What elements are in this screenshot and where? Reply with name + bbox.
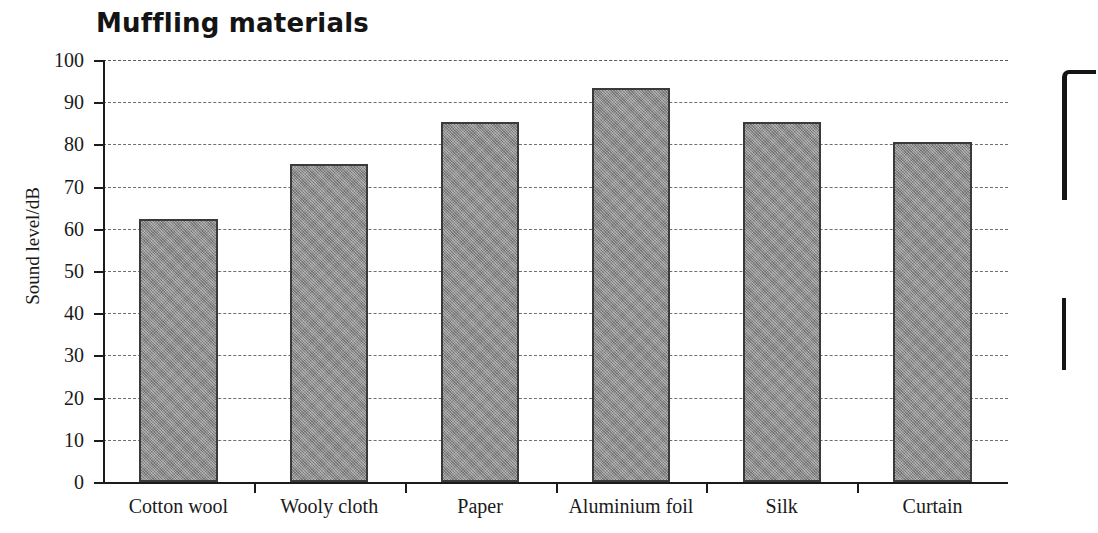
y-tick-label: 70	[24, 177, 84, 197]
x-category-label: Wooly cloth	[254, 496, 405, 516]
y-tick-label: 0	[24, 472, 84, 492]
scan-artifact-binder-clip	[1062, 70, 1096, 370]
bar	[743, 122, 821, 482]
bar	[139, 219, 217, 482]
gridline	[103, 355, 1008, 356]
x-tick-mark	[556, 482, 558, 493]
y-tick-mark	[94, 482, 104, 484]
y-tick-mark	[94, 187, 104, 189]
y-tick-label: 60	[24, 219, 84, 239]
y-tick-mark	[94, 313, 104, 315]
y-tick-mark	[94, 102, 104, 104]
chart-title: Muffling materials	[96, 8, 369, 38]
gridline	[103, 187, 1008, 188]
x-tick-mark	[254, 482, 256, 493]
gridline	[103, 271, 1008, 272]
x-tick-mark	[405, 482, 407, 493]
y-tick-mark	[94, 440, 104, 442]
scan-artifact-top	[1062, 70, 1096, 200]
gridline	[103, 144, 1008, 145]
y-tick-mark	[94, 60, 104, 62]
y-tick-label: 30	[24, 345, 84, 365]
gridline	[103, 102, 1008, 103]
y-tick-label: 80	[24, 134, 84, 154]
gridline	[103, 60, 1008, 61]
x-tick-mark	[706, 482, 708, 493]
x-category-label: Silk	[706, 496, 857, 516]
y-tick-mark	[94, 355, 104, 357]
x-tick-mark	[857, 482, 859, 493]
bar	[441, 122, 519, 482]
x-category-label: Paper	[405, 496, 556, 516]
y-tick-label: 10	[24, 430, 84, 450]
x-category-label: Aluminium foil	[556, 496, 707, 516]
x-category-label: Cotton wool	[103, 496, 254, 516]
gridline	[103, 440, 1008, 441]
y-tick-label: 100	[24, 50, 84, 70]
y-tick-mark	[94, 271, 104, 273]
gridline	[103, 398, 1008, 399]
y-tick-label: 50	[24, 261, 84, 281]
bar	[290, 164, 368, 482]
y-tick-mark	[94, 398, 104, 400]
y-tick-mark	[94, 144, 104, 146]
gridline	[103, 313, 1008, 314]
y-tick-label: 90	[24, 92, 84, 112]
bar	[592, 88, 670, 482]
bar	[893, 142, 971, 482]
gridline	[103, 229, 1008, 230]
plot-area	[103, 60, 1008, 482]
x-category-label: Curtain	[857, 496, 1008, 516]
y-tick-label: 20	[24, 388, 84, 408]
chart-figure: Muffling materials Sound level/dB 100908…	[0, 0, 1098, 533]
y-tick-label: 40	[24, 303, 84, 323]
y-tick-mark	[94, 229, 104, 231]
scan-artifact-bottom	[1062, 298, 1096, 370]
